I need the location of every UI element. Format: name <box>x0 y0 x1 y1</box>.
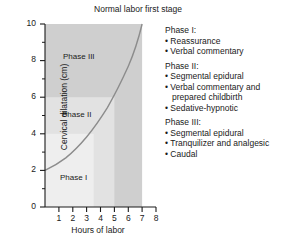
legend-item-label: Verbal commentary and prepared childbirt… <box>170 82 260 103</box>
legend-item: • Reassurance <box>165 36 281 47</box>
y-tick-label-6: 6 <box>22 92 36 101</box>
legend-item-label: Sedative-hypnotic <box>170 103 238 113</box>
legend-heading-phase-ii: Phase II: <box>165 61 281 72</box>
legend-item-label: Verbal commentary <box>170 46 243 56</box>
band-phase-i <box>45 134 94 207</box>
legend-panel: Phase I: • Reassurance • Verbal commenta… <box>165 25 281 163</box>
y-tick-label-0: 0 <box>22 202 36 211</box>
x-tick-label-6: 6 <box>123 214 133 223</box>
x-tick-label-3: 3 <box>82 214 92 223</box>
y-tick-label-10: 10 <box>22 19 36 28</box>
legend-group-phase-iii: Phase III: • Segmental epidural • Tranqu… <box>165 117 281 159</box>
chart-title: Normal labor first stage <box>58 4 218 14</box>
legend-item-label: Tranquilizer and analgesic <box>170 138 269 148</box>
y-axis-ticks <box>40 24 45 207</box>
legend-item-label: Caudal <box>170 149 197 159</box>
y-tick-label-2: 2 <box>22 165 36 174</box>
x-tick-label-2: 2 <box>68 214 78 223</box>
legend-item: • Verbal commentary <box>165 46 281 57</box>
x-tick-label-8: 8 <box>151 214 161 223</box>
legend-item: • Segmental epidural <box>165 71 281 82</box>
legend-heading-phase-iii: Phase III: <box>165 117 281 128</box>
y-tick-label-8: 8 <box>22 55 36 64</box>
x-axis-title: Hours of labor <box>18 225 178 235</box>
legend-item: • Segmental epidural <box>165 128 281 139</box>
x-axis-ticks <box>59 207 156 212</box>
legend-item: • Sedative-hypnotic <box>165 103 281 114</box>
x-tick-label-5: 5 <box>109 214 119 223</box>
legend-group-phase-i: Phase I: • Reassurance • Verbal commenta… <box>165 25 281 57</box>
legend-heading-phase-i: Phase I: <box>165 25 281 36</box>
legend-item: • Verbal commentary and prepared childbi… <box>165 82 281 103</box>
legend-group-phase-ii: Phase II: • Segmental epidural • Verbal … <box>165 61 281 114</box>
legend-item: • Tranquilizer and analgesic <box>165 138 281 149</box>
y-axis-title: Cervical dilatation (cm) <box>59 32 69 182</box>
legend-item-label: Segmental epidural <box>170 71 243 81</box>
x-tick-label-1: 1 <box>54 214 64 223</box>
y-tick-label-4: 4 <box>22 129 36 138</box>
x-tick-label-7: 7 <box>137 214 147 223</box>
legend-item-label: Segmental epidural <box>170 128 243 138</box>
legend-item-label: Reassurance <box>170 36 220 46</box>
x-tick-label-4: 4 <box>96 214 106 223</box>
legend-item: • Caudal <box>165 149 281 160</box>
plot-area: Phase III Phase II Phase I 10 8 6 4 2 0 … <box>45 24 156 207</box>
figure-container: Normal labor first stage <box>0 0 281 247</box>
